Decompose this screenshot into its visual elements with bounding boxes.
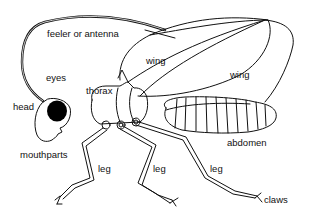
- abdomen-shape: [164, 97, 276, 133]
- label-head: head: [13, 102, 34, 112]
- label-wing-front: wing: [146, 56, 166, 66]
- head-shape: [35, 98, 71, 141]
- label-feeler-antenna: feeler or antenna: [47, 29, 119, 39]
- label-leg-back: leg: [210, 164, 223, 174]
- wings-shape: [118, 18, 293, 102]
- insect-diagram: feeler or antenna wing wing eyes thorax …: [0, 0, 309, 217]
- label-mouthparts: mouthparts: [20, 150, 68, 160]
- label-abdomen: abdomen: [227, 138, 267, 148]
- label-claws: claws: [264, 195, 288, 205]
- eye-shape: [47, 101, 67, 122]
- label-leg-front: leg: [98, 164, 111, 174]
- label-wing-back: wing: [230, 70, 250, 80]
- label-thorax: thorax: [86, 86, 112, 96]
- label-leg-middle: leg: [153, 164, 166, 174]
- label-eyes: eyes: [46, 73, 66, 83]
